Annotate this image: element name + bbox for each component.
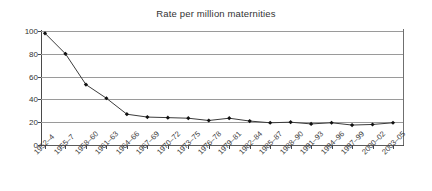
y-axis-tick-label: 80 <box>14 49 38 58</box>
data-point-marker <box>145 115 149 119</box>
plot-right-border <box>403 29 404 146</box>
data-point-marker <box>350 123 354 127</box>
data-series <box>41 31 403 145</box>
series-line <box>45 33 393 125</box>
data-point-marker <box>186 116 190 120</box>
y-axis-tick-label: 100 <box>14 27 38 36</box>
data-point-marker <box>309 122 313 126</box>
data-point-marker <box>329 121 333 125</box>
y-axis-tick-labels: 020406080100 <box>10 31 38 145</box>
y-axis-tick-label: 40 <box>14 95 38 104</box>
data-point-marker <box>207 118 211 122</box>
x-axis-tick-labels: 1952–41955–71958–601961–631964–661967–69… <box>0 148 432 191</box>
data-point-marker <box>268 121 272 125</box>
y-axis-tick-label: 60 <box>14 72 38 81</box>
data-point-marker <box>166 116 170 120</box>
data-point-marker <box>248 119 252 123</box>
chart-title: Rate per million maternities <box>0 8 432 19</box>
data-point-marker <box>227 116 231 120</box>
data-point-marker <box>289 120 293 124</box>
y-axis-tick-label: 20 <box>14 118 38 127</box>
chart-container: Rate per million maternities 02040608010… <box>0 0 432 191</box>
plot-area <box>41 31 403 145</box>
data-point-marker <box>370 122 374 126</box>
data-point-marker <box>391 121 395 125</box>
